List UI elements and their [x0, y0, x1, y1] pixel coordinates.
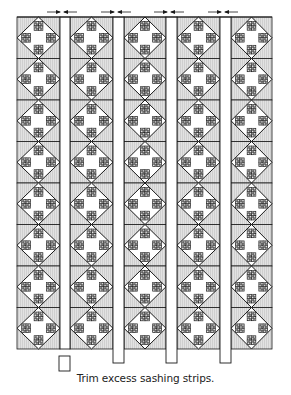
- pressing-arrow-pair: [101, 10, 131, 14]
- quilt-block: [177, 59, 220, 101]
- quilt-block: [70, 266, 113, 308]
- quilt-block: [124, 59, 166, 101]
- trimmed-sashing-piece: [59, 356, 70, 371]
- quilt-block: [177, 308, 220, 350]
- quilt-block: [231, 142, 272, 184]
- quilt-block: [231, 308, 272, 350]
- figure-caption: Trim excess sashing strips.: [0, 372, 291, 384]
- pressing-arrows: [47, 10, 238, 14]
- quilt-block: [124, 183, 166, 225]
- quilt-block: [231, 59, 272, 101]
- sashing-strip: [60, 17, 70, 349]
- quilt-block: [177, 17, 220, 59]
- quilt-block: [70, 100, 113, 142]
- quilt-block: [17, 183, 60, 225]
- quilt-block: [231, 17, 272, 59]
- pressing-arrow-pair: [47, 10, 77, 14]
- quilt-block: [231, 266, 272, 308]
- quilt-block: [124, 142, 166, 184]
- quilt-block: [231, 100, 272, 142]
- quilt-block: [177, 142, 220, 184]
- quilt-block: [17, 142, 60, 184]
- quilt-block: [70, 225, 113, 267]
- quilt-block: [17, 266, 60, 308]
- quilt-assembly-diagram: [0, 0, 291, 395]
- trimmed-piece: [59, 356, 70, 371]
- quilt-block: [124, 225, 166, 267]
- quilt-block: [17, 17, 60, 59]
- sashing-strip: [113, 17, 124, 363]
- quilt-blocks: [17, 17, 272, 349]
- quilt-block: [70, 142, 113, 184]
- quilt-block: [17, 225, 60, 267]
- quilt-block: [17, 100, 60, 142]
- quilt-block: [177, 266, 220, 308]
- quilt-block: [70, 183, 113, 225]
- quilt-block: [70, 308, 113, 350]
- quilt-block: [124, 100, 166, 142]
- quilt-block: [124, 308, 166, 350]
- quilt-block: [177, 183, 220, 225]
- quilt-block: [177, 100, 220, 142]
- quilt-block: [70, 17, 113, 59]
- quilt-block: [177, 225, 220, 267]
- sashing-strip: [220, 17, 231, 363]
- quilt-block: [17, 59, 60, 101]
- quilt-block: [231, 183, 272, 225]
- quilt-block: [70, 59, 113, 101]
- pressing-arrow-pair: [208, 10, 238, 14]
- quilt-block: [231, 225, 272, 267]
- quilt-block: [124, 266, 166, 308]
- quilt-block: [17, 308, 60, 350]
- quilt-block: [124, 17, 166, 59]
- pressing-arrow-pair: [154, 10, 184, 14]
- sashing-strip: [166, 17, 177, 363]
